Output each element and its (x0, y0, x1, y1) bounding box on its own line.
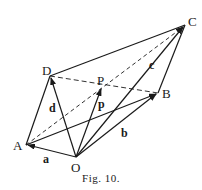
vector-label-c: c (149, 58, 155, 72)
point-label-A: A (13, 138, 23, 153)
point-label-B: B (162, 86, 171, 101)
edge-D-C (50, 25, 185, 76)
vector-a (28, 145, 76, 157)
vector-label-a: a (43, 152, 49, 166)
edge-A-B (26, 94, 156, 145)
vector-diagram: O A B C D P a b c d p (0, 0, 202, 190)
point-label-D: D (42, 63, 51, 78)
edge-A-D (26, 76, 50, 145)
point-label-P: P (97, 73, 104, 88)
vector-label-p: p (98, 97, 105, 111)
vector-label-b: b (121, 126, 128, 140)
point-label-C: C (188, 14, 197, 29)
vector-label-d: d (49, 101, 56, 115)
dashed-A-C (26, 27, 183, 145)
figure-caption: Fig. 10. (0, 172, 202, 184)
vector-d (51, 78, 76, 157)
